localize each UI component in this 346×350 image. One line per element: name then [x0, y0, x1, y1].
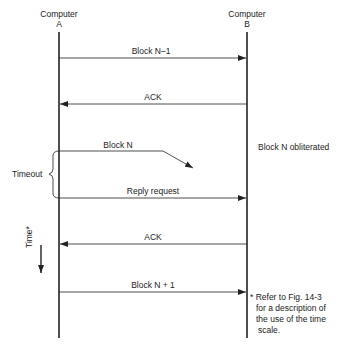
time-axis-label: Time* — [24, 226, 34, 248]
obliterated-note: Block N obliterated — [258, 142, 329, 152]
message-label: Block N — [103, 140, 132, 150]
timeout-label: Timeout — [12, 169, 42, 179]
message-label: ACK — [144, 232, 161, 242]
message-label: Block N + 1 — [131, 280, 175, 290]
node-b-id: B — [228, 19, 265, 29]
footnote-line: scale. — [250, 325, 326, 336]
node-a-id: A — [40, 19, 77, 29]
node-b-label: Computer B — [228, 9, 265, 29]
footnote-line: * Refer to Fig. 14-3 — [250, 292, 326, 303]
node-b-title: Computer — [228, 9, 265, 19]
footnote: * Refer to Fig. 14-3 for a description o… — [250, 292, 326, 336]
footnote-line: for a description of — [250, 303, 326, 314]
footnote-line: the use of the time — [250, 314, 326, 325]
message-label: ACK — [144, 92, 161, 102]
node-a-label: Computer A — [40, 9, 77, 29]
node-a-title: Computer — [40, 9, 77, 19]
message-label: Reply request — [127, 186, 179, 196]
message-label: Block N–1 — [132, 46, 171, 56]
timeout-brace — [49, 151, 59, 198]
arrow-block-n-lost — [59, 151, 193, 168]
